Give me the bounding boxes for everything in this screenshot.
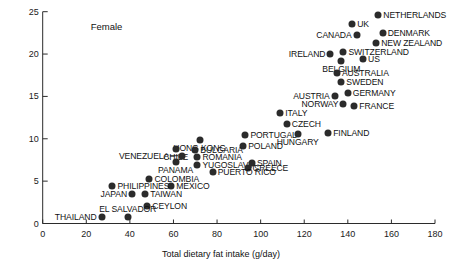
data-point (283, 120, 290, 127)
data-point-label: THAILAND (55, 212, 97, 221)
data-point (351, 102, 358, 109)
x-tick-label: 140 (340, 230, 355, 239)
data-point (124, 213, 131, 220)
data-point (179, 152, 186, 159)
data-point (360, 56, 367, 63)
data-point-label: DENMARK (388, 29, 430, 38)
data-point-label: GERMANY (353, 89, 396, 98)
x-tick-label: 20 (81, 230, 91, 239)
y-tick-label: 20 (19, 50, 39, 59)
x-tick-label: 60 (168, 230, 178, 239)
data-point (192, 146, 199, 153)
data-point-label: AUSTRALIA (342, 68, 389, 77)
data-point-label: IRELAND (289, 50, 326, 59)
x-axis-title: Total dietary fat intake (g/day) (162, 250, 280, 259)
y-tick-label: 0 (19, 219, 39, 228)
data-point-label: POLAND (248, 141, 283, 150)
data-point-label: NEW ZEALAND (381, 39, 442, 48)
y-tick-label: 5 (19, 177, 39, 186)
data-point (277, 109, 284, 116)
data-point (349, 21, 356, 28)
data-point (333, 69, 340, 76)
data-point-label: CANADA (316, 30, 351, 39)
x-tick-label: 120 (297, 230, 312, 239)
data-point-label: CZECH (292, 119, 321, 128)
data-point-label: FINLAND (333, 129, 369, 138)
data-point (194, 154, 201, 161)
data-point (344, 90, 351, 97)
x-tick-label: 100 (253, 230, 268, 239)
data-point-label: EL SALVADOR (99, 204, 156, 213)
y-tick-label: 25 (19, 7, 39, 16)
x-tick-label: 160 (384, 230, 399, 239)
data-point (340, 101, 347, 108)
data-point-label: UK (357, 20, 369, 29)
data-point (129, 190, 136, 197)
data-point (327, 51, 334, 58)
data-point-label: VENEZUELA (119, 151, 169, 160)
x-tick-label: 80 (212, 230, 222, 239)
data-point-label: CEYLON (152, 201, 187, 210)
data-point (142, 190, 149, 197)
data-point (98, 213, 105, 220)
data-point-label: FRANCE (359, 101, 394, 110)
data-point (338, 79, 345, 86)
x-tick-label: 40 (125, 230, 135, 239)
series-annotation-female: Female (91, 21, 123, 32)
data-point (340, 49, 347, 56)
data-point (353, 31, 360, 38)
data-point (325, 129, 332, 136)
data-point-label: PUERTO RICO (218, 168, 276, 177)
x-tick-label: 180 (427, 230, 442, 239)
data-point-label: US (368, 55, 380, 64)
data-point (194, 162, 201, 169)
data-point (242, 132, 249, 139)
data-point-label: PANAMA (158, 165, 193, 174)
data-point-label: JAPAN (100, 190, 127, 199)
x-tick-label: 0 (40, 230, 45, 239)
y-tick-label: 15 (19, 92, 39, 101)
scatter-chart: NETHERLANDSUKCANADADENMARKNEW ZEALANDSWI… (0, 0, 459, 269)
data-point-label: TAIWAN (150, 190, 182, 199)
data-point (209, 168, 216, 175)
data-point-label: NETHERLANDS (383, 11, 446, 20)
data-point (379, 29, 386, 36)
data-point (373, 40, 380, 47)
data-point-label: ITALY (285, 108, 307, 117)
data-point-label: SWEDEN (346, 78, 383, 87)
data-point (375, 12, 382, 19)
y-tick-label: 10 (19, 134, 39, 143)
